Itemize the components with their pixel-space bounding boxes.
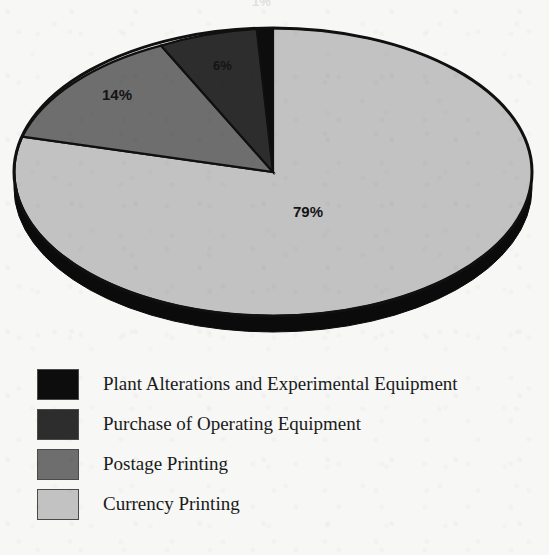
legend-item-purchase-operating-equipment: Purchase of Operating Equipment: [37, 404, 517, 444]
legend-item-postage-printing: Postage Printing: [37, 444, 517, 484]
legend-item-plant-alterations: Plant Alterations and Experimental Equip…: [37, 364, 517, 404]
pie-chart: 1% 6% 14% 79%: [0, 0, 549, 350]
pie-label-plant-alterations: 1%: [252, 0, 271, 9]
pie-label-purchase-operating-equipment: 6%: [213, 58, 232, 73]
pie-label-postage-printing: 14%: [102, 86, 132, 103]
chart-legend: Plant Alterations and Experimental Equip…: [37, 364, 517, 524]
legend-item-currency-printing: Currency Printing: [37, 484, 517, 524]
legend-swatch-plant-alterations: [37, 369, 79, 400]
pie-top-face: [14, 28, 532, 316]
legend-label-purchase-operating-equipment: Purchase of Operating Equipment: [103, 413, 361, 435]
legend-swatch-currency-printing: [37, 489, 79, 520]
pie-label-currency-printing: 79%: [293, 203, 323, 220]
legend-swatch-purchase-operating-equipment: [37, 409, 79, 440]
legend-swatch-postage-printing: [37, 449, 79, 480]
legend-label-plant-alterations: Plant Alterations and Experimental Equip…: [103, 373, 458, 395]
legend-label-currency-printing: Currency Printing: [103, 493, 240, 515]
pie-chart-graphic: [0, 0, 549, 350]
legend-label-postage-printing: Postage Printing: [103, 453, 228, 475]
